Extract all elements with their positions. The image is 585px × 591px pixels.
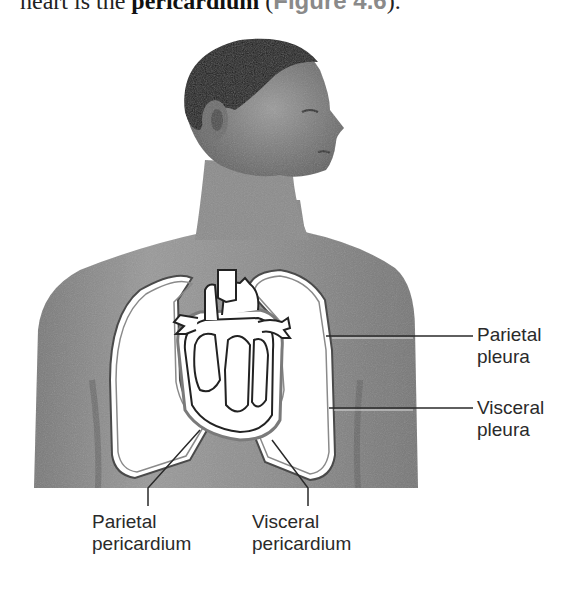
label-parietal-pleura: Parietal pleura xyxy=(477,324,541,368)
label-line: Parietal xyxy=(92,511,191,533)
label-line: pleura xyxy=(477,346,541,368)
label-line: Visceral xyxy=(252,511,351,533)
label-line: Visceral xyxy=(477,397,544,419)
label-line: pericardium xyxy=(252,533,351,555)
label-line: Parietal xyxy=(477,324,541,346)
label-visceral-pericardium: Visceral pericardium xyxy=(252,511,351,555)
label-line: pericardium xyxy=(92,533,191,555)
label-line: pleura xyxy=(477,419,544,441)
label-visceral-pleura: Visceral pleura xyxy=(477,397,544,441)
label-parietal-pericardium: Parietal pericardium xyxy=(92,511,191,555)
anatomy-illustration xyxy=(0,0,585,591)
head xyxy=(184,39,344,177)
